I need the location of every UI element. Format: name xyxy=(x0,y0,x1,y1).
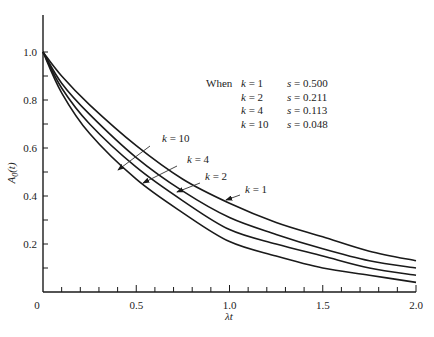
x-tick-label: 0 xyxy=(34,299,40,311)
legend-k-value: k = 4 xyxy=(241,104,264,116)
axes xyxy=(43,15,416,292)
annotation-label: k = 10 xyxy=(162,132,190,144)
y-tick-label: 0.2 xyxy=(23,238,37,250)
y-tick-label: 0.6 xyxy=(23,142,37,154)
chart: 00.51.01.52.00.20.40.60.81.0 k = 10k = 4… xyxy=(0,0,434,337)
legend-s-value: s = 0.211 xyxy=(287,91,327,103)
annotation-arrow xyxy=(143,166,177,183)
x-tick-label: 1.5 xyxy=(316,299,330,311)
legend-s-value: s = 0.500 xyxy=(287,77,328,89)
legend-k-value: k = 2 xyxy=(241,91,263,103)
legend-s-value: s = 0.113 xyxy=(287,104,328,116)
curve-annotations: k = 10k = 4k = 2k = 1 xyxy=(118,132,267,200)
annotation-arrow xyxy=(118,146,150,170)
legend: Whenk = 1s = 0.500k = 2s = 0.211k = 4s =… xyxy=(206,77,328,130)
y-tick-label: 0.8 xyxy=(23,94,37,106)
annotation-label: k = 1 xyxy=(245,183,267,195)
y-tick-label: 1.0 xyxy=(23,46,37,58)
x-tick-label: 0.5 xyxy=(129,299,143,311)
x-tick-label: 2.0 xyxy=(409,299,423,311)
legend-k-value: k = 10 xyxy=(241,118,269,130)
y-tick-label: 0.4 xyxy=(23,190,37,202)
y-axis-label: A0(t) xyxy=(5,162,20,184)
legend-k-value: k = 1 xyxy=(241,77,263,89)
annotation-arrow xyxy=(226,195,240,200)
annotation-label: k = 2 xyxy=(205,170,227,182)
legend-prefix: When xyxy=(206,77,233,89)
legend-s-value: s = 0.048 xyxy=(287,118,328,130)
x-axis-label: λt xyxy=(224,310,234,322)
annotation-label: k = 4 xyxy=(187,153,210,165)
